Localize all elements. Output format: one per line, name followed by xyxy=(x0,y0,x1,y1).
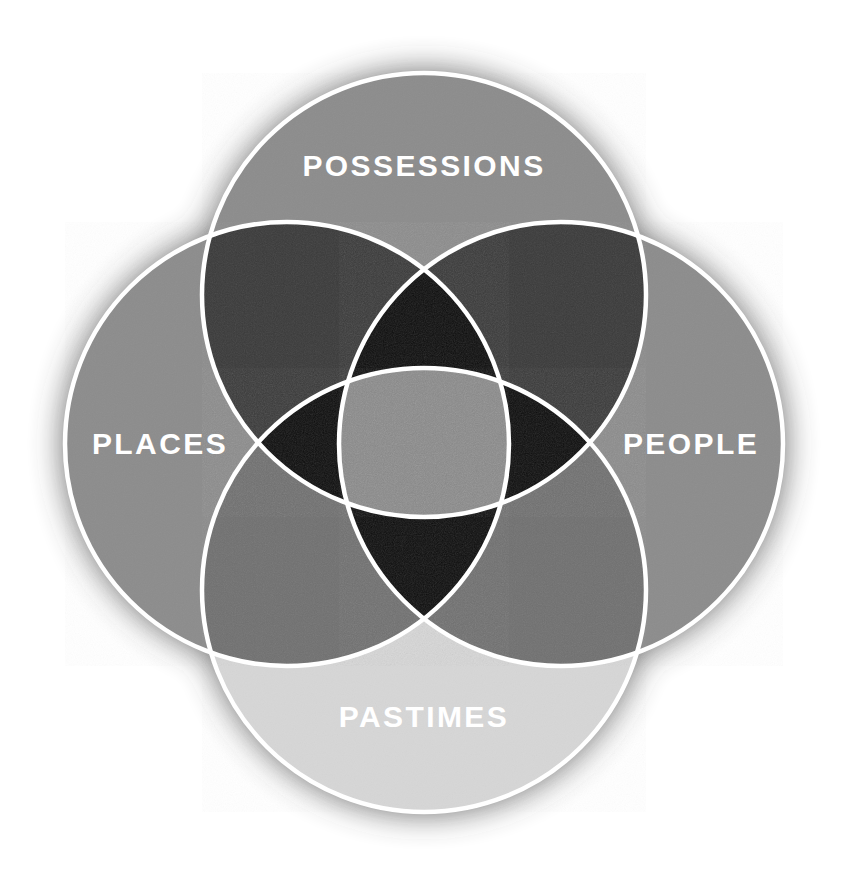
venn-diagram: POSSESSIONS PLACES PEOPLE PASTIMES xyxy=(0,0,845,884)
set-label-people: PEOPLE xyxy=(623,427,759,460)
set-label-pastimes: PASTIMES xyxy=(339,700,509,733)
set-label-places: PLACES xyxy=(92,427,228,460)
venn-diagram-stage: POSSESSIONS PLACES PEOPLE PASTIMES xyxy=(0,0,845,884)
set-label-possessions: POSSESSIONS xyxy=(302,149,545,182)
